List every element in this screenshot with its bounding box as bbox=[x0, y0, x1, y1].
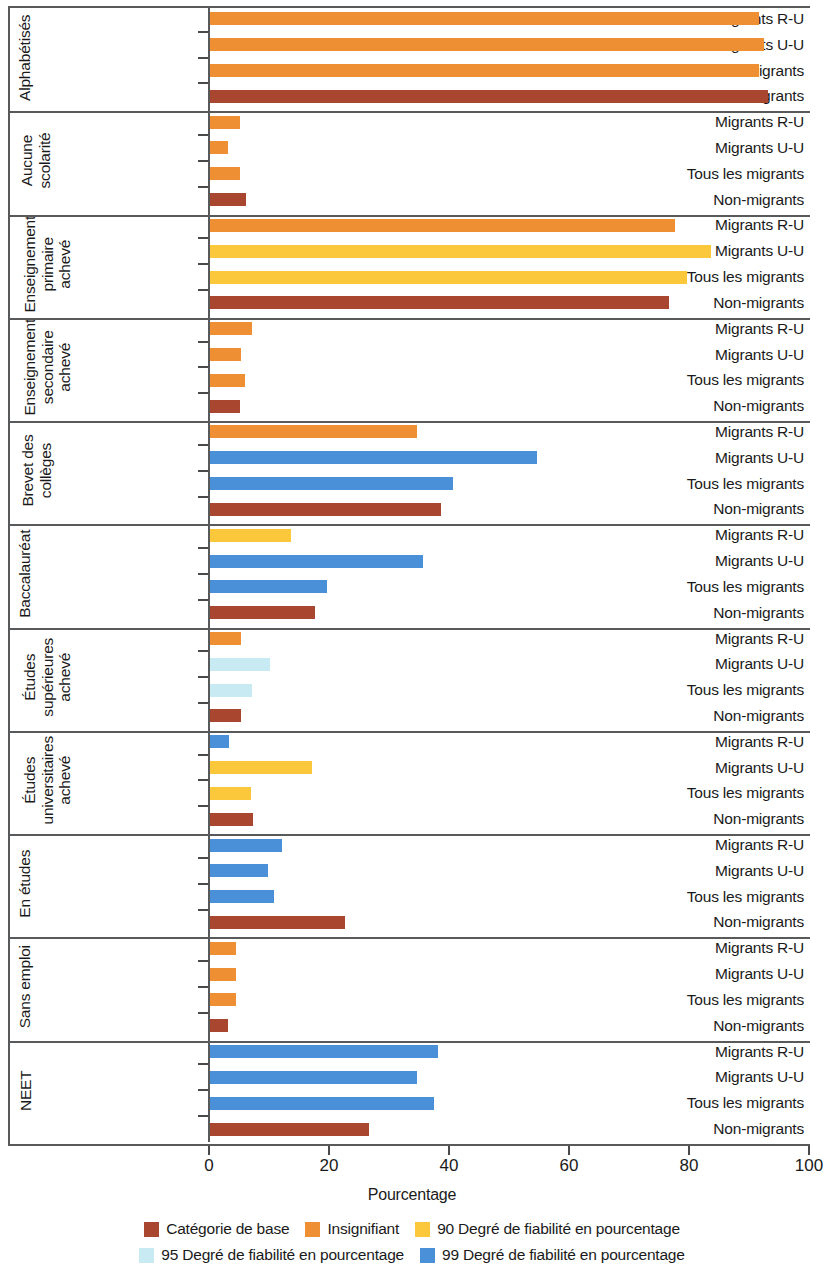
chart-row: Migrants U-U bbox=[8, 1064, 810, 1090]
row-label: Migrants U-U bbox=[614, 966, 810, 982]
group-separator bbox=[8, 215, 810, 217]
bar bbox=[210, 245, 711, 258]
chart-row: Migrants U-U bbox=[8, 32, 810, 58]
bar bbox=[210, 116, 240, 129]
row-label: Non-migrants bbox=[614, 605, 810, 621]
row-label: Migrants U-U bbox=[614, 656, 810, 672]
group-separator bbox=[8, 524, 810, 526]
chart-row: Non-migrants bbox=[8, 290, 810, 316]
row-label: Migrants U-U bbox=[614, 347, 810, 363]
bar bbox=[210, 993, 236, 1006]
bar bbox=[210, 787, 251, 800]
bar bbox=[210, 580, 327, 593]
chart-group: EnseignementprimaireachevéMigrants R-UMi… bbox=[8, 213, 810, 316]
row-label: Non-migrants bbox=[614, 192, 810, 208]
row-label: Non-migrants bbox=[614, 708, 810, 724]
bar bbox=[210, 735, 229, 748]
chart-group: BaccalauréatMigrants R-UMigrants U-UTous… bbox=[8, 522, 810, 625]
chart-row: Non-migrants bbox=[8, 497, 810, 523]
bar bbox=[210, 761, 312, 774]
legend-label: 99 Degré de fiabilité en pourcentage bbox=[442, 1246, 685, 1264]
row-label: Tous les migrants bbox=[614, 372, 810, 388]
legend-swatch bbox=[139, 1248, 154, 1263]
legend-label: 90 Degré de fiabilité en pourcentage bbox=[437, 1220, 680, 1238]
bar bbox=[210, 167, 240, 180]
row-label: Migrants U-U bbox=[614, 760, 810, 776]
row-label: Migrants R-U bbox=[614, 114, 810, 130]
chart-row: Tous les migrants bbox=[8, 58, 810, 84]
bar bbox=[210, 64, 759, 77]
bar bbox=[210, 12, 759, 25]
group-separator bbox=[8, 937, 810, 939]
bar bbox=[210, 1097, 434, 1110]
chart-row: Tous les migrants bbox=[8, 574, 810, 600]
chart-row: Tous les migrants bbox=[8, 471, 810, 497]
bar bbox=[210, 684, 252, 697]
chart-group: Brevet descollègesMigrants R-UMigrants U… bbox=[8, 419, 810, 522]
bar bbox=[210, 193, 246, 206]
x-axis-tick bbox=[448, 1146, 450, 1155]
chart-group: ÉtudesuniversitairesachevéMigrants R-UMi… bbox=[8, 729, 810, 832]
legend-swatch bbox=[305, 1222, 320, 1237]
group-list: AlphabétisésMigrants R-UMigrants U-UTous… bbox=[8, 6, 810, 1142]
chart-row: Tous les migrants bbox=[8, 884, 810, 910]
row-label: Migrants R-U bbox=[614, 940, 810, 956]
chart-row: Migrants U-U bbox=[8, 961, 810, 987]
bar bbox=[210, 942, 236, 955]
bar bbox=[210, 271, 687, 284]
bar bbox=[210, 348, 241, 361]
bar bbox=[210, 219, 675, 232]
group-separator bbox=[8, 318, 810, 320]
bar bbox=[210, 38, 764, 51]
bar bbox=[210, 968, 236, 981]
legend-item: 90 Degré de fiabilité en pourcentage bbox=[415, 1220, 680, 1238]
legend-swatch bbox=[144, 1222, 159, 1237]
row-label: Migrants R-U bbox=[614, 734, 810, 750]
bar bbox=[210, 1123, 369, 1136]
legend-label: Catégorie de base bbox=[166, 1220, 289, 1238]
chart-row: Migrants U-U bbox=[8, 755, 810, 781]
x-axis-tick-label: 100 bbox=[795, 1156, 823, 1176]
legend-row-2: 95 Degré de fiabilité en pourcentage99 D… bbox=[0, 1242, 824, 1268]
x-axis-tick-label: 40 bbox=[440, 1156, 459, 1176]
row-label: Non-migrants bbox=[614, 1121, 810, 1137]
chart-page: AlphabétisésMigrants R-UMigrants U-UTous… bbox=[0, 0, 824, 1271]
group-separator bbox=[8, 421, 810, 423]
legend-item: Insignifiant bbox=[305, 1220, 399, 1238]
group-separator bbox=[8, 731, 810, 733]
bar bbox=[210, 916, 345, 929]
x-axis-tick bbox=[688, 1146, 690, 1155]
legend-item: 95 Degré de fiabilité en pourcentage bbox=[139, 1246, 404, 1264]
bar bbox=[210, 451, 537, 464]
row-label: Non-migrants bbox=[614, 1018, 810, 1034]
chart-row: Non-migrants bbox=[8, 393, 810, 419]
x-axis-tick-label: 60 bbox=[560, 1156, 579, 1176]
legend-row-1: Catégorie de baseInsignifiant90 Degré de… bbox=[0, 1216, 824, 1242]
chart-group: ÉtudessupérieuresachevéMigrants R-UMigra… bbox=[8, 626, 810, 729]
chart-group: AlphabétisésMigrants R-UMigrants U-UTous… bbox=[8, 6, 810, 109]
chart-group: Sans emploiMigrants R-UMigrants U-UTous … bbox=[8, 935, 810, 1038]
bar bbox=[210, 632, 241, 645]
x-axis-tick bbox=[568, 1146, 570, 1155]
bar bbox=[210, 709, 241, 722]
x-axis-title: Pourcentage bbox=[0, 1186, 824, 1204]
bar bbox=[210, 425, 417, 438]
chart-row: Tous les migrants bbox=[8, 161, 810, 187]
bar bbox=[210, 400, 240, 413]
bar bbox=[210, 529, 291, 542]
bar bbox=[210, 813, 253, 826]
chart-row: Tous les migrants bbox=[8, 1090, 810, 1116]
bar bbox=[210, 1019, 228, 1032]
bar bbox=[210, 658, 270, 671]
x-axis-tick-label: 20 bbox=[320, 1156, 339, 1176]
group-separator bbox=[8, 834, 810, 836]
row-label: Tous les migrants bbox=[614, 682, 810, 698]
chart-row: Migrants U-U bbox=[8, 651, 810, 677]
x-axis-tick-label: 0 bbox=[204, 1156, 213, 1176]
group-separator bbox=[8, 111, 810, 113]
x-axis-tick bbox=[808, 1146, 810, 1155]
bar bbox=[210, 296, 669, 309]
chart-row: Non-migrants bbox=[8, 1013, 810, 1039]
row-label: Migrants U-U bbox=[614, 553, 810, 569]
row-label: Tous les migrants bbox=[614, 476, 810, 492]
